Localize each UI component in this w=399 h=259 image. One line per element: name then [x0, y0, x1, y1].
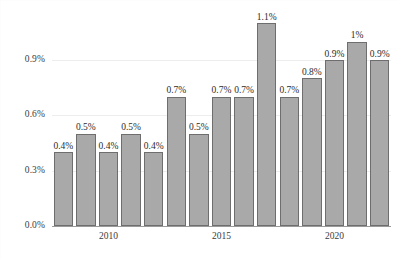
bar-slot: 0.4% — [97, 0, 120, 226]
bar[interactable] — [144, 152, 164, 226]
bar[interactable] — [234, 97, 254, 226]
x-axis-tick-label: 2010 — [89, 231, 129, 241]
bar[interactable] — [370, 60, 390, 226]
x-axis-line — [52, 226, 391, 227]
bar[interactable] — [280, 97, 300, 226]
bar-slot: 0.8% — [301, 0, 324, 226]
bar-slot: 0.5% — [188, 0, 211, 226]
bar-slot: 0.7% — [210, 0, 233, 226]
bar[interactable] — [212, 97, 232, 226]
y-axis-tick-label: 0.9% — [0, 54, 45, 64]
bar-value-label: 0.9% — [362, 49, 397, 59]
bar-slot: 1% — [346, 0, 369, 226]
x-axis-tick-label: 2020 — [315, 231, 355, 241]
bar-slot: 0.7% — [278, 0, 301, 226]
bar[interactable] — [54, 152, 74, 226]
x-axis-labels: 201020152020 — [52, 231, 391, 251]
bar-slot: 0.4% — [142, 0, 165, 226]
bar-slot: 0.7% — [165, 0, 188, 226]
bar-slot: 1.1% — [255, 0, 278, 226]
bar[interactable] — [347, 42, 367, 226]
bar-slot: 0.5% — [120, 0, 143, 226]
bar[interactable] — [257, 23, 277, 226]
x-axis-tick-label: 2015 — [202, 231, 242, 241]
y-axis-labels: 0.0%0.3%0.6%0.9% — [0, 0, 48, 259]
bar[interactable] — [325, 60, 345, 226]
bar[interactable] — [189, 134, 209, 226]
bar-slot: 0.7% — [233, 0, 256, 226]
bar-slot: 0.9% — [368, 0, 391, 226]
bar-slot: 0.5% — [75, 0, 98, 226]
bar[interactable] — [302, 78, 322, 226]
y-axis-tick-label: 0.0% — [0, 220, 45, 230]
y-axis-tick-label: 0.6% — [0, 109, 45, 119]
bar-series: 0.4%0.5%0.4%0.5%0.4%0.7%0.5%0.7%0.7%1.1%… — [52, 0, 391, 226]
y-axis-tick-label: 0.3% — [0, 165, 45, 175]
bar-slot: 0.4% — [52, 0, 75, 226]
bar-chart: 0.0%0.3%0.6%0.9% 0.4%0.5%0.4%0.5%0.4%0.7… — [0, 0, 399, 259]
bar[interactable] — [167, 97, 187, 226]
bar[interactable] — [99, 152, 119, 226]
